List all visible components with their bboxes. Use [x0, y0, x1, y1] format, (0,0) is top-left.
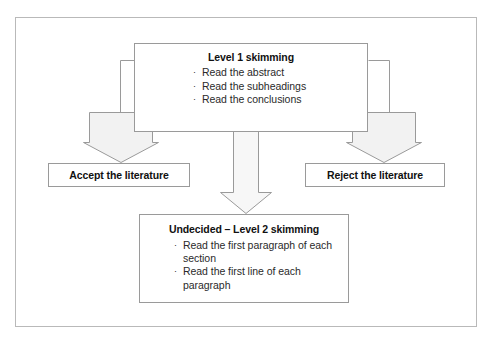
level-1-bullet-list: · Read the abstract · Read the subheadin…	[193, 66, 367, 107]
node-level-1-skimming: Level 1 skimming · Read the abstract · R…	[134, 43, 368, 132]
bullet-glyph: ·	[193, 66, 196, 80]
list-item: · Read the first paragraph of each secti…	[174, 239, 348, 265]
list-item-label: Read the subheadings	[202, 80, 306, 92]
undecided-bullet-list: · Read the first paragraph of each secti…	[174, 239, 348, 292]
bullet-glyph: ·	[174, 239, 177, 253]
arrow-to-undecided-icon	[221, 127, 272, 214]
node-accept-the-literature: Accept the literature	[48, 163, 190, 187]
bullet-glyph: ·	[193, 93, 196, 107]
undecided-title: Undecided – Level 2 skimming	[140, 223, 348, 235]
list-item: · Read the first line of each paragraph	[174, 265, 348, 291]
bullet-glyph: ·	[174, 265, 177, 279]
reject-label: Reject the literature	[306, 164, 444, 186]
node-undecided-level-2-skimming: Undecided – Level 2 skimming · Read the …	[139, 214, 349, 303]
diagram-canvas: Level 1 skimming · Read the abstract · R…	[0, 0, 495, 342]
list-item-label: Read the first paragraph of each section	[183, 239, 332, 264]
list-item: · Read the abstract	[193, 66, 367, 80]
bullet-glyph: ·	[193, 80, 196, 94]
list-item: · Read the subheadings	[193, 80, 367, 94]
list-item-label: Read the conclusions	[202, 93, 301, 105]
list-item-label: Read the abstract	[202, 66, 284, 78]
node-reject-the-literature: Reject the literature	[305, 163, 445, 187]
accept-label: Accept the literature	[49, 164, 189, 186]
level-1-title: Level 1 skimming	[135, 51, 367, 63]
list-item: · Read the conclusions	[193, 93, 367, 107]
list-item-label: Read the first line of each paragraph	[183, 265, 301, 290]
